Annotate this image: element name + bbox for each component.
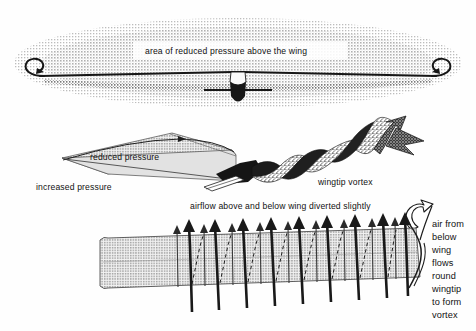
bottom-panel: airflow above and below wing diverted sl… <box>100 200 464 320</box>
wingtip-vortex-label: wingtip vortex <box>317 177 373 187</box>
wingtip-note-line-2: wing <box>431 245 451 255</box>
top-caption: area of reduced pressure above the wing <box>145 46 307 56</box>
top-panel: area of reduced pressure above the wing <box>14 18 462 108</box>
wingtip-note-line-7: vortex <box>432 310 458 320</box>
wingtip-note: air from below wing flows round wingtip … <box>431 219 464 320</box>
wingtip-vortex-diagram: area of reduced pressure above the wing <box>0 0 476 331</box>
middle-panel: reduced pressure increased pressure wing… <box>36 116 424 192</box>
wingtip-note-line-4: round <box>432 271 456 281</box>
wingtip-vortex-ribbon <box>252 116 424 182</box>
wingtip-note-line-0: air from <box>432 219 464 229</box>
wingtip-note-line-6: to form <box>432 297 462 307</box>
wingtip-note-line-1: below <box>432 232 457 242</box>
wingtip-note-line-5: wingtip <box>431 284 461 294</box>
reduced-pressure-label: reduced pressure <box>90 152 159 162</box>
airflow-caption: airflow above and below wing diverted sl… <box>190 201 371 211</box>
wingtip-note-line-3: flows <box>432 258 454 268</box>
increased-pressure-label: increased pressure <box>36 182 112 192</box>
